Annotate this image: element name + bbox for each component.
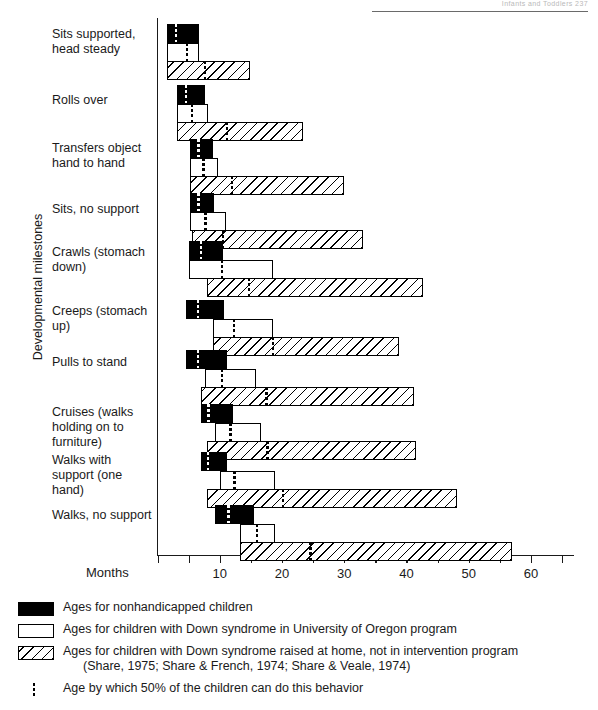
bar-hatch xyxy=(207,278,423,297)
median-marker xyxy=(207,404,209,423)
legend-label: Age by which 50% of the children can do … xyxy=(63,681,363,696)
bar-white xyxy=(215,423,260,442)
median-marker xyxy=(202,158,204,177)
category-label: Rolls over xyxy=(52,93,154,108)
median-marker xyxy=(197,139,199,158)
median-marker xyxy=(221,369,223,388)
legend-sublabel: (Share, 1975; Share & French, 1974; Shar… xyxy=(83,659,518,674)
category-label: Creeps (stomach up) xyxy=(52,304,154,334)
median-marker xyxy=(207,452,209,471)
bar-black xyxy=(186,300,225,319)
median-marker xyxy=(221,260,223,279)
legend-swatch-dotted-icon xyxy=(18,683,54,697)
bar-white xyxy=(220,471,275,490)
median-marker xyxy=(256,524,258,543)
x-tick-label: 20 xyxy=(262,566,302,581)
chart-area: 102030405060 Sits supported, head steady… xyxy=(0,0,598,595)
median-marker xyxy=(248,278,250,297)
legend-swatch-white-icon xyxy=(18,624,54,638)
legend-item: Age by which 50% of the children can do … xyxy=(18,681,588,697)
bar-white xyxy=(213,319,273,338)
x-tick-label: 40 xyxy=(386,566,426,581)
median-marker xyxy=(266,441,268,460)
legend-item: Ages for nonhandicapped children xyxy=(18,600,588,616)
bar-black xyxy=(190,193,213,212)
bar-black xyxy=(215,505,254,524)
bar-black xyxy=(186,350,227,369)
category-label: Walks with support (one hand) xyxy=(52,453,154,498)
median-marker xyxy=(186,43,188,62)
y-axis-title: Developmental milestones xyxy=(31,187,45,387)
category-label: Sits, no support xyxy=(52,202,154,217)
category-label: Sits supported, head steady xyxy=(52,27,154,57)
legend: Ages for nonhandicapped childrenAges for… xyxy=(0,598,598,710)
bar-white xyxy=(205,369,256,388)
median-marker xyxy=(191,104,193,123)
median-marker xyxy=(233,471,235,490)
bar-hatch xyxy=(167,61,250,80)
median-marker xyxy=(204,61,206,80)
median-marker xyxy=(204,212,206,231)
legend-item: Ages for children with Down syndrome in … xyxy=(18,622,588,638)
x-axis-title: Months xyxy=(86,565,129,580)
x-tick-label: 30 xyxy=(324,566,364,581)
bar-white xyxy=(189,260,272,279)
bar-hatch xyxy=(213,337,399,356)
bar-black xyxy=(201,404,233,423)
median-marker xyxy=(309,542,311,561)
category-label: Transfers object hand to hand xyxy=(52,141,154,171)
legend-swatch-hatch-icon xyxy=(18,646,54,660)
x-tick-label: 10 xyxy=(200,566,240,581)
x-tick xyxy=(189,556,190,563)
legend-item: Ages for children with Down syndrome rai… xyxy=(18,644,588,674)
x-tick-label: 60 xyxy=(511,566,551,581)
bar-black xyxy=(167,24,199,43)
category-label: Pulls to stand xyxy=(52,355,154,370)
category-label: Walks, no support xyxy=(52,508,154,523)
median-marker xyxy=(197,193,199,212)
median-marker xyxy=(226,122,228,141)
median-marker xyxy=(282,489,284,508)
bar-white xyxy=(190,212,225,231)
bar-hatch xyxy=(207,441,416,460)
bar-black xyxy=(177,85,205,104)
legend-swatch-black-icon xyxy=(18,602,54,616)
median-marker xyxy=(227,505,229,524)
legend-label: Ages for children with Down syndrome rai… xyxy=(63,644,518,659)
category-label: Crawls (stomach down) xyxy=(52,245,154,275)
legend-label: Ages for children with Down syndrome in … xyxy=(63,622,457,637)
median-marker xyxy=(200,241,202,260)
x-tick xyxy=(158,556,159,563)
bar-white xyxy=(167,43,199,62)
x-tick xyxy=(220,556,221,563)
x-tick xyxy=(562,556,563,563)
median-marker xyxy=(233,319,235,338)
median-marker xyxy=(265,387,267,406)
median-marker xyxy=(272,337,274,356)
bar-black xyxy=(189,241,223,260)
y-axis-line xyxy=(157,18,158,555)
category-label: Cruises (walks holding on to furniture) xyxy=(52,405,154,450)
bar-black xyxy=(190,139,212,158)
median-marker xyxy=(185,85,187,104)
median-marker xyxy=(229,423,231,442)
bar-black xyxy=(201,452,227,471)
legend-label: Ages for nonhandicapped children xyxy=(63,600,253,615)
x-tick-label: 50 xyxy=(449,566,489,581)
median-marker xyxy=(175,24,177,43)
bar-hatch xyxy=(240,542,513,561)
median-marker xyxy=(197,300,199,319)
x-tick xyxy=(531,556,532,563)
bar-hatch xyxy=(201,387,414,406)
median-marker xyxy=(197,350,199,369)
median-marker xyxy=(231,176,233,195)
